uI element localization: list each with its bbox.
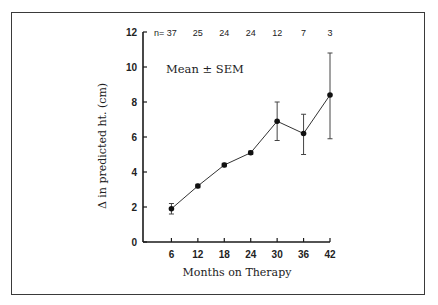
sample-size-label: 12 [272, 28, 282, 38]
data-point [169, 206, 175, 212]
x-tick-label: 42 [324, 249, 336, 260]
y-tick-label: 2 [131, 202, 137, 213]
x-tick-label: 24 [245, 249, 257, 260]
y-tick-label: 6 [131, 132, 137, 143]
y-tick-label: 0 [131, 237, 137, 248]
data-point [221, 162, 227, 168]
y-tick-label: 4 [131, 167, 137, 178]
line-chart: 024681012 6121824303642 n= 372524241273 … [0, 0, 438, 305]
data-point [248, 150, 254, 156]
data-point [327, 92, 333, 98]
y-tick-label: 12 [126, 27, 138, 38]
y-axis-ticks: 024681012 [126, 27, 147, 248]
x-axis-title: Months on Therapy [183, 266, 293, 279]
sample-size-labels: n= 372524241273 [154, 28, 332, 38]
mean-sem-annotation: Mean ± SEM [166, 62, 244, 76]
y-tick-label: 10 [126, 62, 138, 73]
sample-size-label: 3 [327, 28, 332, 38]
x-tick-label: 18 [219, 249, 231, 260]
sample-size-label: 24 [246, 28, 256, 38]
x-tick-label: 12 [192, 249, 204, 260]
data-point [274, 118, 280, 124]
sample-size-label: 7 [301, 28, 306, 38]
data-point [195, 183, 201, 189]
sample-size-label: 24 [219, 28, 229, 38]
y-tick-label: 8 [131, 97, 137, 108]
sample-size-label: 25 [193, 28, 203, 38]
x-tick-label: 6 [169, 249, 175, 260]
x-tick-label: 30 [272, 249, 284, 260]
data-point [301, 131, 307, 137]
y-axis-title: Δ in predicted ht. (cm) [96, 83, 109, 209]
x-tick-label: 36 [298, 249, 310, 260]
sample-size-label: n= 37 [154, 28, 177, 38]
data-series [169, 53, 333, 214]
